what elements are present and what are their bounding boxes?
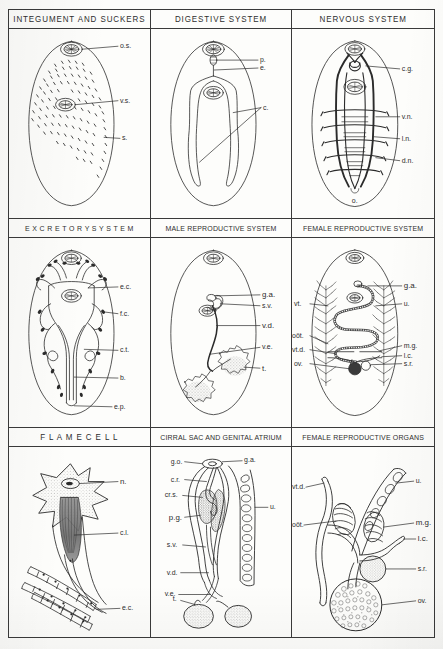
label-u: u. bbox=[416, 477, 422, 484]
panel-title: F L A M E C E L L bbox=[40, 432, 118, 442]
panel-title-bar: INTEGUMENT AND SUCKERS bbox=[9, 10, 150, 29]
label-p: p. bbox=[260, 56, 266, 64]
label-lc: l.c. bbox=[418, 534, 428, 543]
label-sv: s.v. bbox=[262, 302, 272, 309]
panel-title-bar: FEMALE REPRODUCTIVE SYSTEM bbox=[292, 219, 434, 238]
label-t: t. bbox=[172, 595, 176, 602]
label-lc: l.c. bbox=[404, 352, 413, 359]
label-vn: v.n. bbox=[402, 113, 413, 120]
label-ga: g.a. bbox=[244, 456, 256, 464]
panel-title: FEMALE REPRODUCTIVE ORGANS bbox=[302, 433, 424, 440]
label-vs: v.s. bbox=[120, 97, 130, 104]
anatomy-plate: INTEGUMENT AND SUCKERS bbox=[0, 0, 443, 649]
label-u: u. bbox=[404, 300, 410, 307]
panel-nervous-system: NERVOUS SYSTEM bbox=[292, 10, 434, 219]
label-n: n. bbox=[120, 477, 127, 486]
panel-title-bar: FEMALE REPRODUCTIVE ORGANS bbox=[292, 428, 434, 447]
panel-title: E X C R E T O R Y S Y S T E M bbox=[25, 224, 134, 231]
panel-figure: c.g. v.n. l.n. d.n. o. bbox=[292, 29, 434, 219]
label-ln: l.n. bbox=[402, 135, 411, 142]
label-mg: m.g. bbox=[416, 518, 432, 527]
label-ga: g.a. bbox=[262, 290, 275, 299]
label-oot: oöt. bbox=[292, 521, 304, 528]
panel-title: FEMALE REPRODUCTIVE SYSTEM bbox=[303, 224, 423, 231]
label-ov: ov. bbox=[294, 360, 303, 367]
label-go: g.o. bbox=[170, 458, 182, 466]
panel-figure: p. e. c. bbox=[151, 29, 292, 218]
panel-figure: g.o. g.a. c.r. cr.s. p.g. s.v. u. v.d. v… bbox=[151, 447, 292, 637]
panel-title: MALE REPRODUCTIVE SYSTEM bbox=[166, 224, 277, 231]
label-pg: p.g. bbox=[168, 513, 181, 522]
panel-title-bar: E X C R E T O R Y S Y S T E M bbox=[9, 219, 150, 238]
label-ep: e.p. bbox=[114, 403, 126, 411]
label-ga: g.a. bbox=[404, 281, 417, 290]
panel-flame-cell: F L A M E C E L L bbox=[9, 428, 151, 637]
label-dn: d.n. bbox=[402, 157, 414, 164]
label-vtd: vt.d. bbox=[292, 483, 305, 490]
panel-title-bar: F L A M E C E L L bbox=[9, 428, 150, 447]
panel-title-bar: DIGESTIVE SYSTEM bbox=[151, 10, 292, 29]
panel-female-reproductive-system: FEMALE REPRODUCTIVE SYSTEM bbox=[292, 219, 434, 428]
panel-figure: o.s. v.s. s. bbox=[9, 29, 150, 218]
panel-excretory-system: E X C R E T O R Y S Y S T E M bbox=[9, 219, 151, 428]
label-cr: c.r. bbox=[170, 476, 179, 483]
label-cl: c.l. bbox=[120, 529, 129, 536]
label-sr: s.r. bbox=[418, 565, 427, 572]
label-crs: cr.s. bbox=[165, 491, 178, 498]
label-o: o. bbox=[352, 197, 358, 204]
label-vd: v.d. bbox=[167, 569, 178, 576]
panel-title: INTEGUMENT AND SUCKERS bbox=[13, 14, 145, 24]
panel-title: NERVOUS SYSTEM bbox=[320, 14, 407, 24]
label-t: t. bbox=[262, 364, 266, 373]
panel-grid: INTEGUMENT AND SUCKERS bbox=[8, 9, 435, 638]
label-fc: f.c. bbox=[120, 310, 129, 317]
label-e: e. bbox=[260, 64, 266, 71]
label-b: b. bbox=[120, 374, 126, 381]
panel-figure: g.a. u. m.g. l.c. s.r. vt. oöt. vt.d. ov… bbox=[292, 238, 434, 428]
panel-title-bar: CIRRAL SAC AND GENITAL ATRIUM bbox=[151, 428, 292, 447]
label-cg: c.g. bbox=[402, 65, 413, 73]
label-u: u. bbox=[270, 503, 276, 510]
label-mg: m.g. bbox=[404, 342, 418, 350]
panel-title-bar: NERVOUS SYSTEM bbox=[292, 10, 434, 29]
panel-title-bar: MALE REPRODUCTIVE SYSTEM bbox=[151, 219, 292, 238]
label-sv: s.v. bbox=[167, 541, 177, 548]
label-ov: ov. bbox=[418, 597, 427, 604]
label-os: o.s. bbox=[120, 42, 131, 49]
label-oot: oöt. bbox=[292, 332, 304, 339]
panel-cirral-sac-and-genital-atrium: CIRRAL SAC AND GENITAL ATRIUM bbox=[151, 428, 293, 637]
panel-integument-and-suckers: INTEGUMENT AND SUCKERS bbox=[9, 10, 151, 219]
label-vtd: vt.d. bbox=[292, 346, 305, 353]
panel-digestive-system: DIGESTIVE SYSTEM bbox=[151, 10, 293, 219]
panel-male-reproductive-system: MALE REPRODUCTIVE SYSTEM bbox=[151, 219, 293, 428]
label-ec: e.c. bbox=[122, 604, 133, 611]
panel-female-reproductive-organs: FEMALE REPRODUCTIVE ORGANS bbox=[292, 428, 434, 637]
panel-title: CIRRAL SAC AND GENITAL ATRIUM bbox=[160, 433, 281, 440]
panel-figure: n. c.l. e.c. bbox=[9, 447, 150, 637]
label-c: c. bbox=[263, 104, 268, 111]
panel-figure: e.c. f.c. c.t. b. e.p. bbox=[9, 238, 150, 427]
label-ct: c.t. bbox=[120, 346, 129, 353]
label-s: s. bbox=[122, 134, 127, 141]
label-vd: v.d. bbox=[262, 321, 274, 330]
panel-figure: g.a. s.v. v.d. v.e. t. bbox=[151, 238, 292, 427]
panel-figure: vt.d. oöt. u. m.g. l.c. s.r. ov. bbox=[292, 447, 434, 637]
label-vt: vt. bbox=[294, 300, 301, 307]
panel-title: DIGESTIVE SYSTEM bbox=[175, 14, 267, 24]
label-sr: s.r. bbox=[404, 360, 413, 367]
label-ve: v.e. bbox=[262, 343, 273, 350]
label-ec: e.c. bbox=[120, 283, 131, 290]
